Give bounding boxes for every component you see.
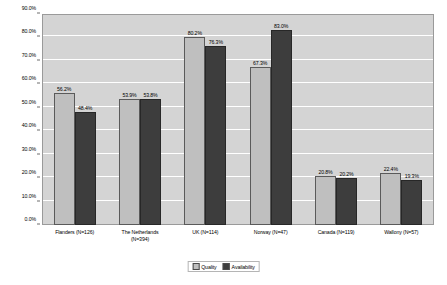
bar-chart: 0.0%10.0%20.0%30.0%40.0%50.0%60.0%70.0%8…	[0, 0, 447, 285]
y-axis-tick-label: 40.0%	[22, 122, 36, 128]
y-axis-tick-label: 50.0%	[22, 99, 36, 105]
bar-value-label: 67.3%	[253, 60, 267, 66]
bar-availability[interactable]	[401, 180, 422, 225]
legend-label: Availability	[232, 264, 255, 270]
bar-slot: 76.3%	[205, 14, 226, 225]
y-axis-tick-label: 30.0%	[22, 146, 36, 152]
y-axis-tick-mark	[37, 177, 40, 178]
bar-quality[interactable]	[119, 99, 140, 225]
y-axis-tick-mark	[37, 200, 40, 201]
x-axis-tick-line: Canada (N=119)	[318, 229, 355, 236]
bar-value-label: 53.8%	[143, 92, 157, 98]
bar-value-label: 56.2%	[57, 86, 71, 92]
bar-availability[interactable]	[336, 178, 357, 225]
gridline	[43, 12, 433, 13]
legend-swatch-icon	[223, 263, 230, 270]
bar-value-label: 48.4%	[78, 105, 92, 111]
legend-swatch-icon	[192, 263, 199, 270]
bar-slot: 67.3%	[250, 14, 271, 225]
y-axis-tick-mark	[37, 59, 40, 60]
bar-quality[interactable]	[250, 67, 271, 225]
bar-slot: 80.2%	[184, 14, 205, 225]
bar-slot: 48.4%	[75, 14, 96, 225]
bars-layer: 56.2%48.4%53.9%53.8%80.2%76.3%67.3%83.0%…	[42, 14, 434, 225]
y-axis-tick-mark	[37, 13, 40, 14]
x-axis-tick-label: Canada (N=119)	[318, 229, 355, 236]
y-axis: 0.0%10.0%20.0%30.0%40.0%50.0%60.0%70.0%8…	[0, 14, 40, 225]
bar-slot: 53.8%	[140, 14, 161, 225]
bar-availability[interactable]	[205, 46, 226, 225]
bar-value-label: 83.0%	[274, 23, 288, 29]
x-axis-tick-label: UK (N=114)	[192, 229, 218, 236]
chart-legend: QualityAvailability	[187, 261, 260, 272]
legend-label: Quality	[201, 264, 216, 270]
bar-value-label: 19.3%	[405, 173, 419, 179]
bar-quality[interactable]	[380, 173, 401, 226]
bar-slot: 20.8%	[315, 14, 336, 225]
bar-value-label: 76.3%	[209, 39, 223, 45]
y-axis-tick-label: 60.0%	[22, 75, 36, 81]
bar-value-label: 20.2%	[339, 171, 353, 177]
bar-slot: 19.3%	[401, 14, 422, 225]
x-axis-tick-line: (N=394)	[122, 236, 159, 243]
y-axis-tick-label: 90.0%	[22, 5, 36, 11]
bar-group: 56.2%48.4%	[42, 14, 107, 225]
bar-group: 20.8%20.2%	[303, 14, 368, 225]
bar-quality[interactable]	[315, 176, 336, 225]
y-axis-tick-label: 80.0%	[22, 28, 36, 34]
y-axis-tick-mark	[37, 36, 40, 37]
x-axis-tick-label: Norway (N=47)	[254, 229, 288, 236]
x-axis-tick-label: Flanders (N=126)	[55, 229, 94, 236]
x-axis-tick-label: Wallony (N=57)	[384, 229, 418, 236]
bar-value-label: 53.9%	[122, 92, 136, 98]
y-axis-tick-mark	[37, 106, 40, 107]
y-axis-tick-mark	[37, 153, 40, 154]
bar-group: 80.2%76.3%	[173, 14, 238, 225]
x-axis-tick-label: The Netherlands(N=394)	[122, 229, 159, 243]
bar-group: 67.3%83.0%	[238, 14, 303, 225]
y-axis-tick-label: 20.0%	[22, 169, 36, 175]
y-axis-tick-mark	[37, 83, 40, 84]
y-axis-tick-label: 70.0%	[22, 52, 36, 58]
bar-availability[interactable]	[75, 112, 96, 225]
bar-group: 53.9%53.8%	[107, 14, 172, 225]
x-axis: Flanders (N=126)The Netherlands(N=394)UK…	[42, 229, 434, 255]
bar-availability[interactable]	[140, 99, 161, 225]
bar-slot: 53.9%	[119, 14, 140, 225]
bar-quality[interactable]	[54, 93, 75, 225]
x-axis-tick-line: Norway (N=47)	[254, 229, 288, 236]
y-axis-tick-mark	[37, 224, 40, 225]
bar-value-label: 22.4%	[384, 166, 398, 172]
legend-item[interactable]: Availability	[223, 263, 255, 270]
bar-slot: 20.2%	[336, 14, 357, 225]
y-axis-tick-label: 0.0%	[25, 216, 36, 222]
bar-group: 22.4%19.3%	[369, 14, 434, 225]
y-axis-tick-label: 10.0%	[22, 193, 36, 199]
legend-item[interactable]: Quality	[192, 263, 216, 270]
bar-slot: 56.2%	[54, 14, 75, 225]
bar-availability[interactable]	[271, 30, 292, 225]
bar-slot: 22.4%	[380, 14, 401, 225]
y-axis-tick-mark	[37, 130, 40, 131]
bar-value-label: 80.2%	[188, 30, 202, 36]
bar-value-label: 20.8%	[318, 169, 332, 175]
x-axis-tick-line: UK (N=114)	[192, 229, 218, 236]
bar-quality[interactable]	[184, 37, 205, 225]
x-axis-tick-line: Flanders (N=126)	[55, 229, 94, 236]
x-axis-tick-line: The Netherlands	[122, 229, 159, 236]
x-axis-tick-line: Wallony (N=57)	[384, 229, 418, 236]
bar-slot: 83.0%	[271, 14, 292, 225]
